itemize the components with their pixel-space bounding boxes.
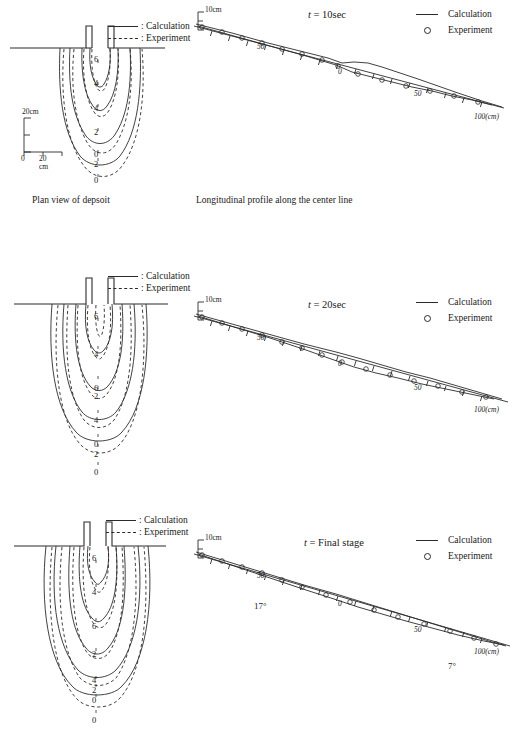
- legend-item-calculation: Calculation: [414, 532, 492, 548]
- contour-label: 4: [94, 416, 98, 425]
- plan-legend-t10: : Calculation : Experiment: [108, 20, 190, 44]
- contour-label: 0: [92, 696, 96, 705]
- contour-label: 2: [94, 392, 98, 401]
- contour-label: 0: [94, 440, 98, 449]
- caption-plan-view: Plan view of depsoit: [32, 195, 110, 205]
- legend-item-experiment: Experiment: [414, 22, 492, 38]
- legend-label-experiment: : Experiment: [139, 527, 188, 537]
- legend-label-calculation: : Calculation: [141, 21, 190, 31]
- legend-label-experiment: : Experiment: [141, 283, 190, 293]
- contour-label: 0: [94, 150, 98, 159]
- title-variable: t: [308, 9, 311, 20]
- profile-tick-label: 50: [257, 43, 265, 51]
- contour-label: 0: [94, 468, 98, 477]
- legend-label-experiment: Experiment: [448, 551, 492, 561]
- profile-tick-label: 50: [257, 572, 265, 580]
- profile-panel-final: 10cm 50 0 50 100(cm) 17° 7° t = Final st…: [186, 526, 532, 686]
- contour-label: 2: [94, 128, 98, 137]
- legend-item-experiment: : Experiment: [108, 32, 190, 44]
- solid-line-icon: [108, 276, 138, 277]
- legend-label-experiment: : Experiment: [141, 33, 190, 43]
- legend-label-calculation: : Calculation: [139, 515, 188, 525]
- legend-item-experiment: Experiment: [414, 548, 492, 564]
- circle-marker-icon: [414, 553, 440, 560]
- profile-legend-final: Calculation Experiment: [414, 532, 492, 564]
- profile-title-final: t = Final stage: [304, 538, 364, 549]
- legend-label-calculation: : Calculation: [141, 271, 190, 281]
- legend-item-calculation: : Calculation: [108, 270, 190, 282]
- profile-tick-label: 0: [338, 68, 342, 76]
- profile-scale-label: 10cm: [205, 6, 222, 14]
- title-equals: =: [314, 9, 320, 20]
- contour-label: 0: [92, 716, 96, 725]
- legend-label-calculation: Calculation: [448, 9, 492, 19]
- legend-item-calculation: Calculation: [414, 6, 492, 22]
- profile-tick-label: 50: [414, 626, 422, 634]
- legend-item-experiment: : Experiment: [108, 282, 190, 294]
- title-variable: t: [304, 537, 307, 548]
- plan-scale-vertical-label: 20cm: [22, 108, 39, 116]
- title-value: Final stage: [318, 537, 364, 548]
- profile-tick-label: 50: [414, 384, 422, 392]
- profile-panel-t10: 10cm 50 0 50 100(cm) t = 10sec Calculati…: [186, 0, 532, 160]
- angle-annotation-right: 7°: [448, 662, 456, 671]
- contour-label: 0: [94, 176, 98, 185]
- solid-line-icon: [108, 26, 138, 27]
- contour-label: 6: [94, 55, 98, 64]
- profile-title-t20: t = 20sec: [308, 300, 346, 311]
- solid-line-icon: [414, 14, 440, 15]
- dashed-line-icon: [108, 38, 138, 39]
- title-variable: t: [308, 299, 311, 310]
- contour-label: 6: [94, 312, 98, 321]
- profile-panel-t20: 10cm 50 0 50 100(cm) t = 20sec Calculati…: [186, 290, 532, 450]
- figure-row-t10: 6 4 4 2 0 2 0 20cm 0 20 cm : Calculation…: [0, 0, 532, 230]
- title-value: 20sec: [322, 299, 346, 310]
- circle-marker-icon: [414, 315, 440, 322]
- caption-profile: Longitudinal profile along the center li…: [196, 195, 352, 205]
- profile-scale-label: 10cm: [205, 296, 222, 304]
- legend-label-calculation: Calculation: [448, 535, 492, 545]
- legend-item-calculation: : Calculation: [106, 514, 188, 526]
- legend-label-experiment: Experiment: [448, 25, 492, 35]
- contour-label: 2: [94, 450, 98, 459]
- title-equals: =: [314, 299, 320, 310]
- figure-root: 6 4 4 2 0 2 0 20cm 0 20 cm : Calculation…: [0, 0, 532, 736]
- contour-label: 6: [92, 554, 96, 563]
- dashed-line-icon: [108, 288, 138, 289]
- profile-tick-label: 100(cm): [474, 648, 499, 656]
- figure-row-t20: 6 4 6 2 4 0 2 0 : Calculation : Experime…: [0, 248, 532, 498]
- profile-tick-label: 0: [338, 600, 342, 608]
- title-equals: =: [310, 537, 316, 548]
- legend-label-calculation: Calculation: [448, 297, 492, 307]
- legend-item-experiment: Experiment: [414, 310, 492, 326]
- profile-scale-label: 10cm: [205, 534, 222, 542]
- plan-legend-final: : Calculation : Experiment: [106, 514, 188, 538]
- plan-scale-unit-label: cm: [39, 163, 48, 171]
- legend-item-calculation: Calculation: [414, 294, 492, 310]
- profile-tick-label: 50: [414, 90, 422, 98]
- solid-line-icon: [414, 302, 440, 303]
- contour-label: 4: [92, 676, 96, 685]
- solid-line-icon: [106, 520, 136, 521]
- profile-tick-label: 50: [257, 334, 265, 342]
- contour-label: 2: [92, 650, 96, 659]
- contour-label: 4: [94, 104, 98, 113]
- profile-legend-t20: Calculation Experiment: [414, 294, 492, 326]
- contour-label: 2: [94, 160, 98, 169]
- plan-scale-zero-label: 0: [21, 155, 25, 163]
- legend-item-calculation: : Calculation: [108, 20, 190, 32]
- contour-label: 6: [92, 622, 96, 631]
- contour-label: 4: [94, 350, 98, 359]
- contour-label: 4: [94, 79, 98, 88]
- title-value: 10sec: [322, 9, 346, 20]
- legend-label-experiment: Experiment: [448, 313, 492, 323]
- profile-tick-label: 100(cm): [474, 113, 499, 121]
- profile-tick-label: 0: [338, 360, 342, 368]
- legend-item-experiment: : Experiment: [106, 526, 188, 538]
- contour-label: 2: [92, 686, 96, 695]
- contour-label: 4: [92, 588, 96, 597]
- angle-annotation-left: 17°: [254, 602, 267, 611]
- plan-legend-t20: : Calculation : Experiment: [108, 270, 190, 294]
- circle-marker-icon: [414, 27, 440, 34]
- profile-legend-t10: Calculation Experiment: [414, 6, 492, 38]
